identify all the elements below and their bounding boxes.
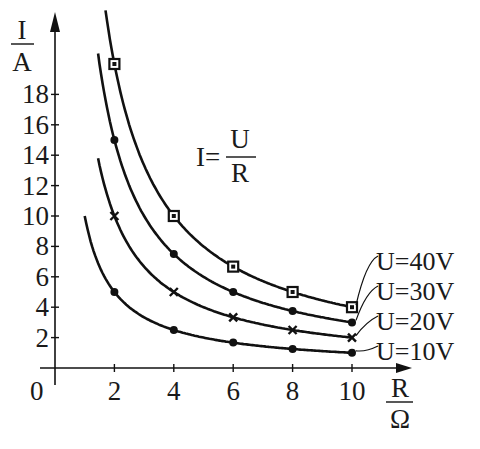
dot-marker-icon	[289, 307, 297, 315]
y-tick-label: 12	[22, 171, 49, 201]
x-axis-label-numerator: R	[391, 373, 409, 403]
formula-denominator: R	[231, 158, 249, 188]
y-tick-label: 18	[22, 79, 49, 109]
x-axis-label-denominator: Ω	[390, 404, 410, 434]
dot-marker-icon	[229, 339, 237, 347]
x-tick-label: 4	[167, 376, 181, 406]
y-axis-arrow-icon	[50, 12, 60, 32]
origin-label: 0	[30, 376, 44, 406]
dot-marker-icon	[348, 349, 356, 357]
y-axis-label-denominator: A	[12, 47, 32, 77]
chart: 246810246810121416180IARΩI=URU=40VU=30VU…	[0, 0, 480, 449]
dot-marker-icon	[289, 345, 297, 353]
legend-label: U=10V	[376, 337, 454, 366]
y-tick-label: 10	[22, 201, 49, 231]
dot-marker-icon	[110, 136, 118, 144]
dot-marker-icon	[229, 288, 237, 296]
formula-lhs: I=	[196, 142, 220, 172]
curves	[85, 10, 357, 356]
y-tick-label: 4	[36, 292, 50, 322]
y-tick-label: 8	[36, 231, 50, 261]
square-marker-center	[291, 290, 295, 294]
dot-marker-icon	[170, 250, 178, 258]
square-marker-center	[172, 214, 176, 218]
x-tick-label: 10	[339, 376, 366, 406]
formula-numerator: U	[230, 124, 250, 154]
y-axis-label-numerator: I	[18, 15, 27, 45]
legend-label: U=20V	[376, 307, 454, 336]
cross-marker-icon	[170, 288, 178, 296]
axes	[40, 12, 412, 385]
legend-label: U=40V	[376, 247, 454, 276]
x-tick-label: 2	[108, 376, 122, 406]
x-tick-label: 6	[226, 376, 240, 406]
y-tick-label: 2	[36, 323, 50, 353]
dot-marker-icon	[348, 318, 356, 326]
y-tick-label: 16	[22, 110, 49, 140]
curve-u-20v	[98, 158, 352, 337]
y-tick-label: 14	[22, 140, 50, 170]
square-marker-center	[231, 265, 235, 269]
square-marker-center	[350, 305, 354, 309]
dot-marker-icon	[170, 326, 178, 334]
legend-leader-line	[356, 316, 378, 336]
curve-u-30v	[98, 54, 352, 323]
legend-label: U=30V	[376, 277, 454, 306]
x-tick-label: 8	[286, 376, 300, 406]
square-marker-center	[112, 62, 116, 66]
y-tick-label: 6	[36, 262, 50, 292]
dot-marker-icon	[110, 288, 118, 296]
legend-leader-line	[356, 346, 378, 351]
